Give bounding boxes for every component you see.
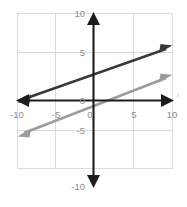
dark-line-arrow-right: [159, 44, 173, 53]
axes-group: [16, 12, 174, 188]
y-axis-arrow-down: [87, 175, 100, 188]
y-tick-label-minus5: -5: [77, 125, 85, 136]
gray-line-arrow-left: [18, 129, 32, 138]
y-tick-label-plus10: 10: [74, 8, 85, 19]
gray-line-arrow-right: [159, 74, 173, 83]
coordinate-plane-svg: -10 -5 0 5 10 10 5 0 -5 -10 x: [0, 0, 187, 207]
x-tick-label-minus10: -10: [10, 109, 24, 120]
y-tick-label-plus5: 5: [80, 47, 85, 58]
x-axis-name-label: x: [177, 92, 180, 98]
coordinate-graph-figure: -10 -5 0 5 10 10 5 0 -5 -10 x: [0, 0, 187, 207]
y-tick-label-zero: 0: [80, 95, 85, 106]
x-tick-label-plus5: 5: [131, 109, 136, 120]
data-lines-group: [18, 44, 173, 138]
grid-border: [18, 14, 173, 169]
dark-line-segment: [24, 49, 166, 99]
gray-line-segment: [24, 78, 166, 133]
y-tick-label-minus10: -10: [71, 181, 85, 192]
x-tick-label-minus5: -5: [52, 109, 60, 120]
grid-group: [18, 14, 173, 169]
x-tick-label-plus10: 10: [167, 109, 178, 120]
x-tick-label-zero: 0: [87, 109, 92, 120]
